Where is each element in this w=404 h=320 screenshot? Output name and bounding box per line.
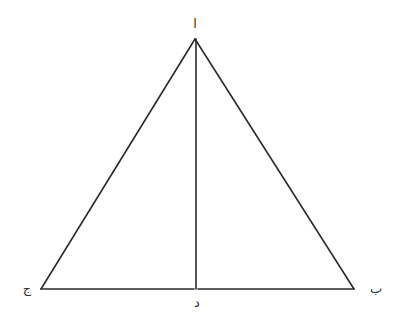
label-left: ج — [23, 281, 32, 297]
side-apex-right — [195, 39, 354, 289]
label-foot: د — [194, 295, 200, 310]
label-apex: ا — [193, 16, 197, 31]
triangle-diagram: ا ب ج د — [0, 0, 404, 320]
side-apex-left — [41, 39, 195, 289]
label-right: ب — [370, 281, 382, 296]
